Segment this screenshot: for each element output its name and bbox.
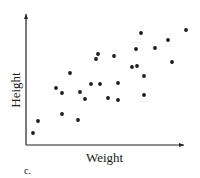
data-point (83, 97, 87, 101)
data-point (60, 112, 64, 116)
data-point (60, 91, 64, 95)
data-point (89, 82, 93, 86)
data-points (31, 28, 188, 135)
data-point (54, 86, 58, 90)
data-point (142, 74, 146, 78)
data-point (96, 52, 100, 56)
data-point (76, 118, 80, 122)
y-axis-label: Height (3, 60, 29, 120)
data-point (135, 64, 139, 68)
data-point (106, 96, 110, 100)
data-point (116, 98, 120, 102)
y-axis-label-text: Height (8, 72, 24, 107)
data-point (116, 81, 120, 85)
data-point (112, 54, 116, 58)
data-point (31, 131, 35, 135)
x-axis-label: Weight (86, 150, 123, 166)
data-point (170, 60, 174, 64)
data-point (78, 90, 82, 94)
data-point (130, 65, 134, 69)
data-point (153, 46, 157, 50)
data-point (94, 57, 98, 61)
figure-caption: c. (24, 165, 31, 176)
data-point (134, 47, 138, 51)
data-point (139, 31, 143, 35)
data-point (36, 119, 40, 123)
data-point (98, 82, 102, 86)
data-point (166, 38, 170, 42)
data-point (68, 71, 72, 75)
data-point (142, 93, 146, 97)
data-point (184, 28, 188, 32)
